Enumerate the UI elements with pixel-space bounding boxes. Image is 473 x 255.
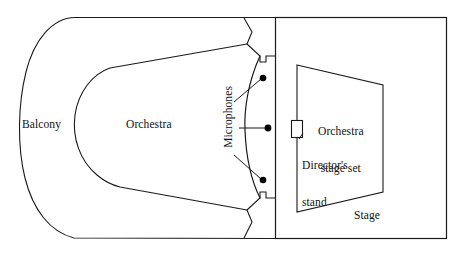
floor-plan-drawing [0, 0, 473, 255]
upper-aisle-seam [244, 18, 252, 44]
stage-label: Stage [354, 209, 380, 221]
orchestra-label: Orchestra [126, 118, 172, 130]
lower-aisle-seam [244, 210, 252, 238]
balcony-label: Balcony [22, 118, 61, 130]
microphone-dot-middle [265, 125, 272, 132]
upper-stage-step [247, 44, 275, 62]
directors-stand-label-line1: Director's [302, 159, 348, 171]
directors-stand-label: Director's stand [302, 134, 348, 233]
microphone-dot-top [260, 75, 267, 82]
directors-stand-marker [292, 121, 303, 138]
lower-stage-step [247, 192, 275, 210]
microphones-label: Microphones [222, 86, 234, 148]
directors-stand-label-line2: stand [302, 196, 348, 208]
microphone-dot-bottom [260, 177, 267, 184]
concert-hall-floor-plan: Balcony Orchestra Microphones Orchestra … [0, 0, 473, 255]
